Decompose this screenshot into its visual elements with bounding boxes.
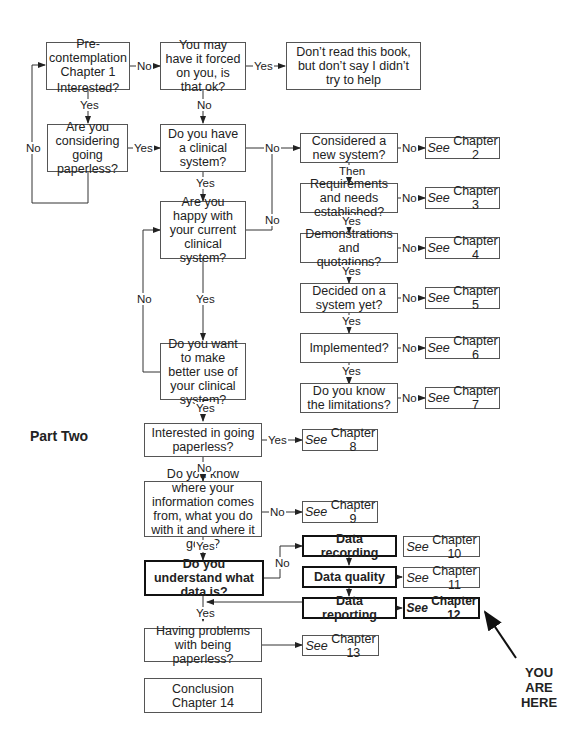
node-text: Do you understand what data is?: [150, 557, 258, 599]
node-text: Demonstrations and quotations?: [305, 227, 393, 269]
edge-label-no: No: [401, 392, 418, 404]
edge-label-no: No: [264, 142, 281, 154]
node-precontemplation: Pre-contemplation Chapter 1 Interested?: [46, 42, 130, 90]
node-conclusion: Conclusion Chapter 14: [144, 678, 262, 713]
edge-label-no: No: [401, 142, 418, 154]
node-better-use: Do you want to make better use of your c…: [160, 343, 246, 400]
node-demonstrations: Demonstrations and quotations?: [300, 233, 398, 263]
edge-label-no: No: [136, 60, 153, 72]
edge-label-yes: Yes: [267, 434, 288, 446]
edge-label-yes: Yes: [341, 365, 362, 377]
see-text: See: [427, 291, 449, 305]
node-decided: Decided on a system yet?: [300, 283, 398, 313]
chapter-label: Chapter 8: [331, 426, 375, 454]
chapter-label: Chapter 4: [453, 234, 497, 262]
chapter-label: Chapter 6: [453, 334, 497, 362]
node-text: Do you know where your information comes…: [149, 467, 257, 551]
edge-label-yes: Yes: [341, 265, 362, 277]
connector-lines: [0, 0, 573, 742]
node-happy: Are you happy with your current clinical…: [160, 201, 246, 259]
edge-label-yes: Yes: [341, 215, 362, 227]
edge-label-no: No: [196, 99, 213, 111]
see-text: See: [427, 341, 449, 355]
edge-label-no: No: [401, 192, 418, 204]
chapter-box-11: See Chapter 11: [403, 567, 480, 588]
edge-label-yes: Yes: [195, 607, 216, 619]
node-text: Pre-contemplation: [49, 37, 127, 65]
chapter-label: Chapter 3: [453, 184, 497, 212]
see-text: See: [406, 601, 427, 615]
node-dont-read: Don’t read this book, but don’t say I di…: [286, 42, 421, 90]
edge-label-no: No: [401, 292, 418, 304]
chapter-box-13: See Chapter 13: [302, 635, 379, 656]
edge-label-yes: Yes: [195, 540, 216, 552]
node-text: You may have it forced on you, is that o…: [165, 38, 241, 94]
chapter-label: Chapter 9: [331, 498, 375, 526]
node-text: Interested in going paperless?: [149, 426, 257, 454]
edge-label-no: No: [401, 242, 418, 254]
chapter-label: Chapter 7: [453, 384, 497, 412]
node-text: Data reporting: [308, 594, 391, 622]
node-text: Chapter 14: [172, 696, 234, 710]
chapter-label: Chapter 13: [331, 632, 375, 660]
section-label: Part Two: [30, 428, 88, 444]
node-text: Implemented?: [309, 341, 388, 355]
chapter-box-8: See Chapter 8: [302, 429, 378, 451]
chapter-box-6: See Chapter 6: [425, 337, 500, 359]
node-text: Requirements and needs established?: [305, 177, 393, 219]
chapter-label: Chapter 12: [431, 594, 476, 622]
node-text: Having problems with being paperless?: [149, 624, 257, 666]
chapter-label: Chapter 11: [432, 564, 476, 592]
node-have-system: Do you have a clinical system?: [160, 124, 246, 172]
node-text: Are you happy with your current clinical…: [165, 195, 241, 265]
chapter-label: Chapter 10: [432, 533, 476, 561]
node-considered-new: Considered a new system?: [300, 133, 398, 163]
node-interested-paperless: Interested in going paperless?: [144, 423, 262, 457]
edge-label-yes: Yes: [79, 99, 100, 111]
edge-label-no: No: [136, 293, 153, 305]
chapter-box-4: See Chapter 4: [425, 237, 500, 259]
you-are-here-label: YOU ARE HERE: [514, 665, 564, 710]
chapter-box-9: See Chapter 9: [302, 501, 378, 523]
chapter-label: Chapter 2: [453, 134, 497, 162]
node-data-reporting: Data reporting: [302, 597, 397, 619]
node-text: Do you have a clinical system?: [165, 127, 241, 169]
see-text: See: [427, 141, 449, 155]
node-understand-data: Do you understand what data is?: [144, 560, 264, 596]
see-text: See: [305, 505, 327, 519]
node-text: Do you want to make better use of your c…: [165, 337, 241, 407]
chapter-box-7: See Chapter 7: [425, 387, 500, 409]
edge-label-then: Then: [338, 165, 366, 177]
see-text: See: [427, 391, 449, 405]
node-text: Don’t read this book, but don’t say I di…: [291, 45, 416, 87]
see-text: See: [427, 241, 449, 255]
edge-label-no: No: [264, 214, 281, 226]
node-text: Decided on a system yet?: [305, 284, 393, 312]
edge-label-yes: Yes: [253, 60, 274, 72]
chapter-box-10: See Chapter 10: [403, 536, 480, 557]
edge-label-no: No: [274, 557, 291, 569]
edge-label-yes: Yes: [195, 402, 216, 414]
chapter-box-2: See Chapter 2: [425, 137, 500, 159]
node-text: Interested?: [57, 81, 120, 95]
node-text: Are you considering going paperless?: [52, 120, 123, 176]
node-limitations: Do you know the limitations?: [300, 383, 398, 413]
node-requirements: Requirements and needs established?: [300, 183, 398, 213]
see-text: See: [427, 191, 449, 205]
node-text: Data recording: [308, 532, 391, 560]
node-text: Considered a new system?: [305, 134, 393, 162]
edge-label-no: No: [269, 506, 286, 518]
node-know-info: Do you know where your information comes…: [144, 481, 262, 537]
node-forced: You may have it forced on you, is that o…: [160, 42, 246, 90]
see-text: See: [406, 540, 428, 554]
edge-label-no: No: [196, 462, 213, 474]
node-data-recording: Data recording: [302, 535, 397, 557]
edge-label-yes: Yes: [133, 142, 154, 154]
node-text: Data quality: [314, 570, 385, 584]
edge-label-yes: Yes: [341, 315, 362, 327]
chapter-box-3: See Chapter 3: [425, 187, 500, 209]
node-text: Chapter 1: [61, 65, 116, 79]
edge-label-no: No: [25, 142, 42, 154]
edge-label-yes: Yes: [195, 177, 216, 189]
edge-label-no: No: [401, 342, 418, 354]
